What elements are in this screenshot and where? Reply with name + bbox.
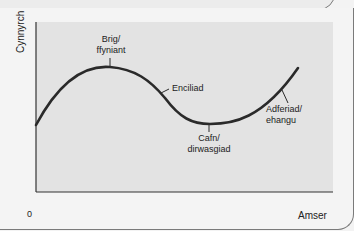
recovery-label-line1: Adferiad/ — [266, 104, 302, 115]
x-axis-label: Amser — [298, 210, 327, 221]
peak-label-line2: ffyniant — [96, 45, 126, 56]
recovery-label-line2: ehangu — [266, 115, 302, 126]
peak-label-line1: Brig/ — [96, 34, 126, 45]
recovery-annotation: Adferiad/ ehangu — [266, 104, 302, 126]
recovery-leader — [282, 90, 288, 103]
trough-label-line1: Cafn/ — [186, 133, 232, 144]
trough-label-line2: dirwasgiad — [186, 144, 232, 155]
diagram-frame: Cynnyrch Brig/ ffyniant Enciliad Cafn/ d… — [0, 0, 354, 231]
trough-annotation: Cafn/ dirwasgiad — [186, 133, 232, 155]
y-axis-label: Cynnyrch — [15, 11, 26, 53]
peak-annotation: Brig/ ffyniant — [96, 34, 126, 56]
output-curve — [36, 67, 298, 125]
origin-label: 0 — [27, 209, 32, 220]
recession-annotation: Enciliad — [172, 83, 204, 94]
recession-leader — [161, 89, 169, 93]
